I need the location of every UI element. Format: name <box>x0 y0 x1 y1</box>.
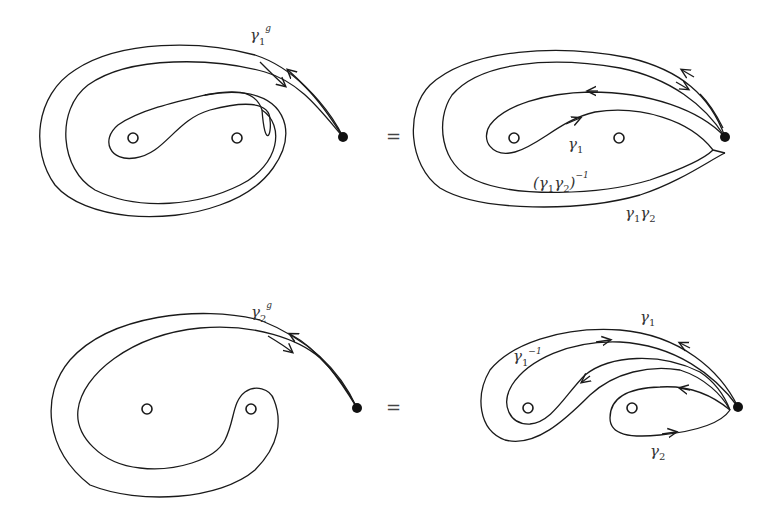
label-gamma1gamma2: γ1γ2 <box>625 204 656 224</box>
puncture-1 <box>128 133 138 143</box>
puncture-1 <box>142 404 152 414</box>
loop-outer <box>51 313 357 497</box>
puncture-2 <box>614 133 624 143</box>
basepoint <box>338 132 348 142</box>
loop-cusp <box>713 150 725 153</box>
arrow-in <box>268 336 292 352</box>
loop-inner <box>109 95 271 158</box>
puncture-2 <box>627 403 637 413</box>
arrow-2 <box>680 343 690 348</box>
label-gamma1-g: γ1g <box>250 23 271 47</box>
label-gamma2: γ2 <box>650 442 665 462</box>
puncture-2 <box>246 404 256 414</box>
arrow-in <box>260 62 285 86</box>
label-gamma1: γ1 <box>640 308 655 328</box>
loop-gamma1 <box>486 92 725 153</box>
panel-bottom-left: γ2g <box>51 300 362 497</box>
label-gamma1: γ1 <box>568 135 583 155</box>
label-gamma2-g: γ2g <box>251 300 272 324</box>
panel-top-right: γ1 (γ1γ2)−1 γ1γ2 <box>413 51 730 224</box>
panel-bottom-right: γ1 γ1−1 γ2 <box>481 308 743 462</box>
loop-outer <box>40 45 343 217</box>
puncture-1 <box>523 403 533 413</box>
arrow-4 <box>566 118 580 124</box>
basepoint <box>733 402 743 412</box>
puncture-2 <box>232 133 242 143</box>
loop-outer-close <box>320 358 357 408</box>
basepoint <box>352 403 362 413</box>
diagram-canvas: γ1g = γ1 (γ1γ2)−1 γ1γ2 γ2g = <box>0 0 781 515</box>
panel-top-left: γ1g <box>40 23 348 217</box>
arrow-1 <box>682 70 694 77</box>
basepoint <box>720 132 730 142</box>
equals-sign-top: = <box>386 126 401 147</box>
puncture-1 <box>509 133 519 143</box>
label-gamma1gamma2-inverse: (γ1γ2)−1 <box>533 170 589 194</box>
equals-sign-bottom: = <box>386 397 401 418</box>
label-gamma1-inverse: γ1−1 <box>513 346 542 368</box>
